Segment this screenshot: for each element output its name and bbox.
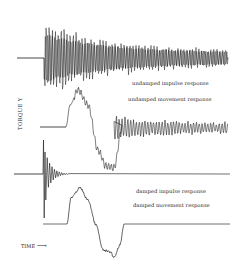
damped-movement-trace — [43, 187, 230, 257]
waveform-plot — [0, 0, 243, 276]
label-undamped-impulse: undamped impulse response — [132, 80, 209, 86]
time-label-text: TIME — [21, 243, 35, 249]
torque-response-figure: undamped impulse response undamped movem… — [0, 0, 243, 276]
label-damped-impulse: damped impulse response — [136, 188, 206, 194]
label-undamped-movement: undamped movement response — [128, 96, 212, 102]
x-axis-label: TIME ⟶ — [21, 242, 47, 250]
time-arrow-icon: ⟶ — [37, 242, 47, 250]
label-damped-movement: damped movement response — [133, 202, 210, 208]
y-axis-label: TORQUE Y — [17, 97, 23, 130]
